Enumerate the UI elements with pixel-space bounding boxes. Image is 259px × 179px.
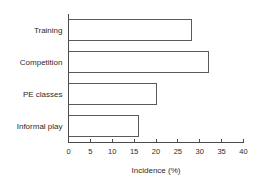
category-label-pe-classes: PE classes <box>23 90 63 99</box>
x-tick-label-10: 10 <box>108 147 116 156</box>
x-axis-tick-labels: 0510152025303540 <box>66 147 247 156</box>
x-tick-label-40: 40 <box>239 147 247 156</box>
x-tick-label-15: 15 <box>130 147 138 156</box>
bar-training <box>69 19 192 40</box>
bars-group <box>69 19 209 137</box>
bar-competition <box>69 51 209 72</box>
chart-canvas: 0510152025303540 TrainingCompetitionPE c… <box>0 0 259 179</box>
x-axis-title: Incidence (%) <box>132 166 181 175</box>
bar-pe-classes <box>69 84 157 105</box>
x-tick-label-35: 35 <box>217 147 225 156</box>
x-tick-label-30: 30 <box>196 147 204 156</box>
category-label-informal-play: Informal play <box>17 122 63 131</box>
category-label-training: Training <box>34 26 63 35</box>
category-labels: TrainingCompetitionPE classesInformal pl… <box>17 26 63 132</box>
bar-informal-play <box>69 116 139 137</box>
x-tick-label-0: 0 <box>66 147 70 156</box>
category-label-competition: Competition <box>20 58 63 67</box>
x-tick-label-25: 25 <box>174 147 182 156</box>
x-tick-label-5: 5 <box>88 147 92 156</box>
bar-chart: 0510152025303540 TrainingCompetitionPE c… <box>0 0 259 179</box>
x-tick-label-20: 20 <box>152 147 160 156</box>
